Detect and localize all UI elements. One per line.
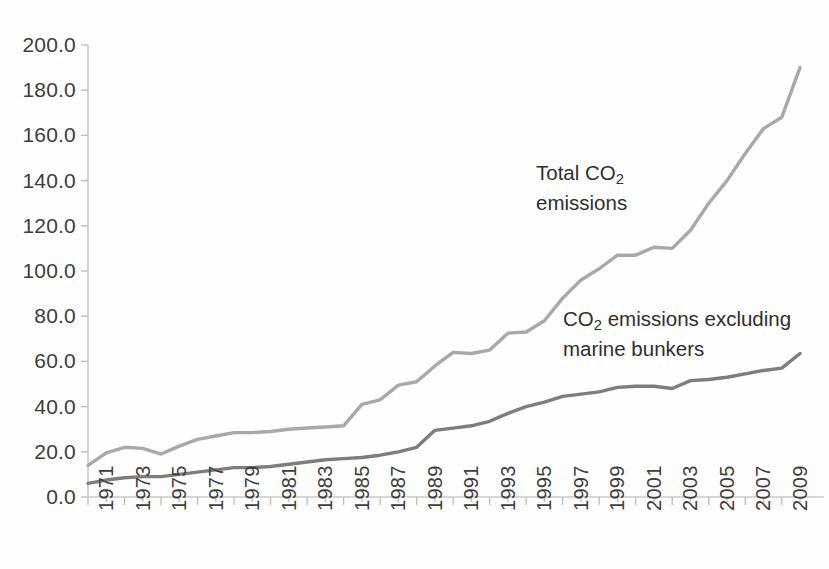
y-axis-tick-label-text: 0.0 [0, 486, 76, 507]
annotation-total-line2: emissions [536, 188, 627, 218]
annotation-excl-line1: CO2 emissions excluding [563, 307, 791, 330]
x-axis-tick-label-text: 1985 [352, 465, 372, 511]
x-axis-tick-label-text: 2007 [753, 465, 773, 511]
y-axis-tick-label-text: 140.0 [0, 170, 76, 191]
x-axis-tick-label-text: 1997 [571, 465, 591, 511]
chart-plot-area [0, 0, 829, 569]
x-axis-tick-label-text: 1993 [498, 465, 518, 511]
y-axis-tick-label-text: 160.0 [0, 124, 76, 145]
x-axis-tick-label-text: 1975 [169, 465, 189, 511]
x-axis-tick-label-text: 1971 [96, 465, 116, 511]
y-axis-tick-label-text: 200.0 [0, 34, 76, 55]
x-axis-tick-label-text: 1991 [461, 465, 481, 511]
y-axis-tick-label-text: 20.0 [0, 441, 76, 462]
x-axis-tick-label-text: 1989 [425, 465, 445, 511]
x-axis-tick-label-text: 1981 [279, 465, 299, 511]
x-axis-tick-label-text: 1977 [206, 465, 226, 511]
chart-series-line [88, 68, 800, 466]
y-axis-tick-label-text: 40.0 [0, 396, 76, 417]
y-axis-tick-label-text: 60.0 [0, 350, 76, 371]
annotation-excluding-marine-bunkers: CO2 emissions excluding marine bunkers [563, 304, 791, 363]
y-axis-tick-label-text: 100.0 [0, 260, 76, 281]
chart-series-line [88, 353, 800, 483]
x-axis-tick-label-text: 2005 [717, 465, 737, 511]
x-axis-tick-label-text: 1973 [133, 465, 153, 511]
y-axis-ticks [81, 45, 88, 497]
annotation-total-co2-emissions: Total CO2 emissions [536, 158, 627, 217]
annotation-excl-line2: marine bunkers [563, 334, 791, 364]
y-axis-tick-label-text: 120.0 [0, 215, 76, 236]
x-axis-tick-label-text: 1999 [607, 465, 627, 511]
x-axis-tick-label-text: 1979 [242, 465, 262, 511]
x-axis-tick-label-text: 2003 [680, 465, 700, 511]
y-axis-tick-label-text: 180.0 [0, 79, 76, 100]
x-axis-tick-label-text: 1995 [534, 465, 554, 511]
x-axis-tick-label-text: 2001 [644, 465, 664, 511]
chart-series-lines [88, 68, 800, 484]
x-axis-tick-label-text: 1987 [388, 465, 408, 511]
co2-emissions-line-chart: 200.0180.0160.0140.0120.0100.080.060.040… [0, 0, 829, 569]
y-axis-tick-label-text: 80.0 [0, 305, 76, 326]
x-axis-tick-label-text: 1983 [315, 465, 335, 511]
x-axis-tick-label-text: 2009 [790, 465, 810, 511]
chart-axes [81, 45, 824, 505]
annotation-total-line1: Total CO2 [536, 161, 624, 184]
